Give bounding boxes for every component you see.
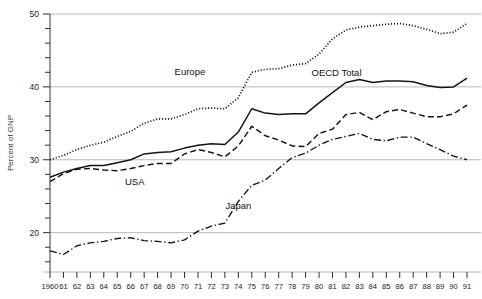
x-tick-label-65: 65 <box>113 282 121 291</box>
x-tick-label-70: 70 <box>180 282 188 291</box>
x-tick-label-76: 76 <box>261 282 269 291</box>
line-chart: EuropeOECD TotalUSAJapan 20304050 196061… <box>0 0 482 299</box>
y-axis-tick-labels: 20304050 <box>30 9 40 238</box>
y-tick-label-30: 30 <box>30 155 40 165</box>
series-line-oecd-total <box>50 78 467 177</box>
x-tick-label-91: 91 <box>463 282 471 291</box>
series-label-oecd-total: OECD Total <box>312 67 362 78</box>
x-tick-label-83: 83 <box>355 282 363 291</box>
x-tick-label-89: 89 <box>436 282 444 291</box>
y-axis-title: Percent of GNP <box>6 115 15 171</box>
series-label-japan: Japan <box>225 200 251 211</box>
x-tick-label-81: 81 <box>328 282 336 291</box>
x-tick-label-78: 78 <box>288 282 296 291</box>
series-line-japan <box>50 134 467 255</box>
x-tick-label-87: 87 <box>409 282 417 291</box>
x-tick-label-64: 64 <box>100 282 108 291</box>
series-label-usa: USA <box>125 176 145 187</box>
x-axis-tick-labels: 1960616263646566676869707172737475767778… <box>42 282 472 291</box>
x-tick-label-86: 86 <box>396 282 404 291</box>
x-tick-label-77: 77 <box>274 282 282 291</box>
gridlines <box>43 14 481 272</box>
x-tick-label-62: 62 <box>73 282 81 291</box>
x-tick-label-88: 88 <box>422 282 430 291</box>
series-line-usa <box>50 105 467 182</box>
data-series <box>50 23 467 254</box>
x-tick-label-66: 66 <box>126 282 134 291</box>
chart-container: EuropeOECD TotalUSAJapan 20304050 196061… <box>0 0 482 299</box>
x-tick-label-84: 84 <box>369 282 377 291</box>
x-tick-label-61: 61 <box>59 282 67 291</box>
x-tick-label-68: 68 <box>153 282 161 291</box>
y-tick-label-40: 40 <box>30 82 40 92</box>
x-tick-label-85: 85 <box>382 282 390 291</box>
x-tick-label-79: 79 <box>301 282 309 291</box>
x-tick-label-82: 82 <box>342 282 350 291</box>
x-tick-label-71: 71 <box>194 282 202 291</box>
y-tick-label-20: 20 <box>30 228 40 238</box>
series-line-europe <box>50 23 467 159</box>
x-tick-label-75: 75 <box>248 282 256 291</box>
x-tick-label-67: 67 <box>140 282 148 291</box>
x-tick-label-72: 72 <box>207 282 215 291</box>
x-tick-label-74: 74 <box>234 282 242 291</box>
x-tick-label-80: 80 <box>315 282 323 291</box>
series-label-europe: Europe <box>175 66 206 77</box>
x-tick-label-73: 73 <box>221 282 229 291</box>
y-tick-label-50: 50 <box>30 9 40 19</box>
x-tick-label-1960: 1960 <box>42 282 59 291</box>
x-axis-ticks <box>50 272 467 278</box>
x-tick-label-69: 69 <box>167 282 175 291</box>
y-axis-ticks <box>43 14 50 262</box>
x-tick-label-63: 63 <box>86 282 94 291</box>
x-tick-label-90: 90 <box>449 282 457 291</box>
